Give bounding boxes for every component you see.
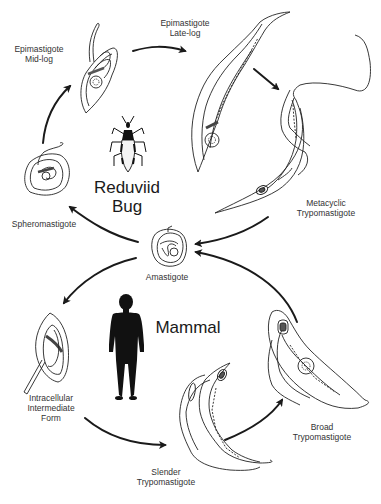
host-label-mammal: Mammal bbox=[148, 318, 228, 337]
label-line: Intracellular bbox=[16, 393, 86, 403]
label-broad-trypomastigote: Broad Trypomastigote bbox=[282, 422, 362, 442]
label-line: Trypomastigote bbox=[126, 477, 206, 487]
broad-trypomastigote-cell bbox=[268, 310, 368, 408]
human-silhouette-icon bbox=[109, 294, 144, 400]
label-metacyclic-trypomastigote: Metacyclic Trypomastigote bbox=[280, 198, 372, 218]
label-spheromastigote: Spheromastigote bbox=[4, 219, 84, 229]
label-line: Late-log bbox=[152, 28, 218, 38]
label-line: Spheromastigote bbox=[4, 219, 84, 229]
life-cycle-diagram: Epimastigote Mid-log Epimastigote Late-l… bbox=[0, 0, 381, 504]
arrow-epimid-to-epilate bbox=[133, 47, 185, 51]
epimastigote-midlog-cell bbox=[81, 23, 118, 113]
spheromastigote-cell bbox=[25, 143, 70, 196]
label-line: Slender bbox=[126, 467, 206, 477]
label-line: Intermediate bbox=[16, 403, 86, 413]
arrow-slender-to-broad bbox=[225, 400, 282, 440]
reduviid-bug-icon bbox=[110, 116, 146, 172]
amastigote-cell bbox=[152, 226, 187, 266]
label-amastigote: Amastigote bbox=[136, 272, 198, 282]
arrow-sphero-to-epimid bbox=[43, 86, 70, 143]
arrow-epilate-to-meta bbox=[254, 69, 278, 89]
arrow-meta-to-ama bbox=[196, 217, 268, 244]
metacyclic-trypomastigote-cell bbox=[215, 35, 370, 213]
label-line: Epimastigote bbox=[152, 18, 218, 28]
host-label-line: Bug bbox=[92, 197, 162, 216]
slender-trypomastigote-cell bbox=[180, 363, 272, 470]
label-line: Broad bbox=[282, 422, 362, 432]
label-line: Epimastigote bbox=[6, 44, 72, 54]
label-epimastigote-latelog: Epimastigote Late-log bbox=[152, 18, 218, 38]
label-slender-trypomastigote: Slender Trypomastigote bbox=[126, 467, 206, 487]
label-line: Trypomastigote bbox=[282, 432, 362, 442]
label-line: Amastigote bbox=[136, 272, 198, 282]
label-line: Form bbox=[16, 413, 86, 423]
label-line: Mid-log bbox=[6, 54, 72, 64]
label-line: Trypomastigote bbox=[280, 208, 372, 218]
label-epimastigote-midlog: Epimastigote Mid-log bbox=[6, 44, 72, 64]
label-line: Metacyclic bbox=[280, 198, 372, 208]
arrows bbox=[43, 47, 297, 445]
arrow-intracell-to-slender bbox=[85, 418, 165, 445]
label-intracellular-intermediate-form: Intracellular Intermediate Form bbox=[16, 393, 86, 423]
intracellular-intermediate-cell bbox=[24, 313, 69, 394]
host-label-line: Reduviid bbox=[92, 178, 162, 197]
host-label-reduviid-bug: Reduviid Bug bbox=[92, 178, 162, 216]
